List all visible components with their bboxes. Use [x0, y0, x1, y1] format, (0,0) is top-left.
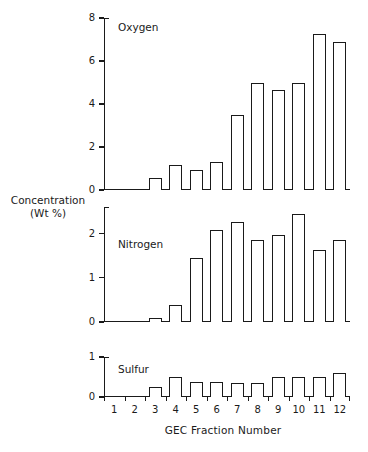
bar-nitrogen-12	[333, 240, 346, 322]
bar-sulfur-3	[149, 387, 162, 397]
bar-oxygen-11	[313, 34, 326, 190]
y-tick-label-nitrogen-0: 0	[74, 317, 95, 327]
x-axis-title: GEC Fraction Number	[95, 424, 351, 436]
y-tick-label-nitrogen-2: 2	[74, 229, 95, 239]
y-tick-label-nitrogen-1: 1	[74, 273, 95, 283]
y-tick-label-sulfur-1: 1	[74, 352, 95, 362]
x-tick-label-6: 6	[207, 405, 228, 415]
bar-oxygen-6	[210, 162, 223, 190]
bar-nitrogen-3	[149, 318, 162, 322]
y-axis-top-cap-sulfur	[104, 357, 109, 358]
x-tick-label-4: 4	[166, 405, 187, 415]
x-tick-label-5: 5	[186, 405, 207, 415]
bar-sulfur-11	[313, 377, 326, 397]
x-tick-label-3: 3	[145, 405, 166, 415]
x-tick-label-1: 1	[104, 405, 125, 415]
x-tick-3	[145, 396, 146, 401]
x-tick-1	[104, 396, 105, 401]
x-tick-6	[207, 396, 208, 401]
y-tick-oxygen-1	[99, 146, 104, 147]
bar-sulfur-9	[272, 377, 285, 397]
x-tick-8	[248, 396, 249, 401]
bar-sulfur-5	[190, 382, 203, 397]
y-axis-top-cap-oxygen	[104, 18, 109, 19]
panel-nitrogen: 012 Nitrogen	[104, 207, 350, 322]
y-tick-oxygen-0	[99, 189, 104, 190]
x-tick-11	[309, 396, 310, 401]
x-tick-9	[268, 396, 269, 401]
y-tick-nitrogen-1	[99, 277, 104, 278]
bar-sulfur-10	[292, 377, 305, 397]
bar-nitrogen-6	[210, 230, 223, 322]
x-tick-7	[227, 396, 228, 401]
x-tick-label-7: 7	[227, 405, 248, 415]
plot-area-oxygen: 02468	[104, 18, 350, 190]
bar-nitrogen-7	[231, 222, 244, 322]
x-tick-2	[125, 396, 126, 401]
bar-oxygen-10	[292, 83, 305, 191]
bar-oxygen-7	[231, 115, 244, 190]
y-tick-oxygen-3	[99, 60, 104, 61]
bar-oxygen-3	[149, 178, 162, 190]
bar-oxygen-4	[169, 165, 182, 190]
bar-nitrogen-9	[272, 235, 285, 322]
bar-nitrogen-10	[292, 214, 305, 322]
y-tick-label-oxygen-4: 8	[74, 13, 95, 23]
x-tick-4	[166, 396, 167, 401]
bar-nitrogen-5	[190, 258, 203, 322]
bar-sulfur-7	[231, 383, 244, 397]
bar-nitrogen-4	[169, 305, 182, 322]
bar-oxygen-12	[333, 42, 346, 190]
y-tick-label-sulfur-0: 0	[74, 392, 95, 402]
x-tick-label-8: 8	[248, 405, 269, 415]
bar-oxygen-8	[251, 83, 264, 191]
bar-sulfur-12	[333, 373, 346, 397]
concentration-bar-chart-figure: Concentration (Wt %) 02468 Oxygen 012 Ni…	[0, 0, 368, 452]
x-tick-label-10: 10	[289, 405, 310, 415]
x-tick-label-11: 11	[309, 405, 330, 415]
y-axis-title: Concentration (Wt %)	[2, 194, 94, 220]
panel-label-nitrogen: Nitrogen	[118, 239, 163, 250]
y-tick-label-oxygen-0: 0	[74, 185, 95, 195]
bar-oxygen-5	[190, 170, 203, 190]
y-axis-line-nitrogen	[104, 207, 105, 322]
x-tick-label-12: 12	[330, 405, 351, 415]
y-tick-label-oxygen-3: 6	[74, 56, 95, 66]
bar-sulfur-6	[210, 382, 223, 397]
panel-sulfur: 01123456789101112 Sulfur	[104, 357, 350, 397]
x-tick-5	[186, 396, 187, 401]
plot-area-nitrogen: 012	[104, 207, 350, 322]
bar-nitrogen-8	[251, 240, 264, 322]
panel-label-sulfur: Sulfur	[118, 364, 149, 375]
y-axis-title-line-1: Concentration	[11, 194, 85, 206]
y-tick-oxygen-2	[99, 103, 104, 104]
y-axis-top-cap-nitrogen	[104, 207, 109, 208]
y-tick-nitrogen-2	[99, 233, 104, 234]
x-tick-label-9: 9	[268, 405, 289, 415]
y-axis-line-oxygen	[104, 18, 105, 190]
y-axis-title-line-2: (Wt %)	[2, 207, 94, 220]
y-axis-line-sulfur	[104, 357, 105, 397]
x-tick-label-2: 2	[125, 405, 146, 415]
y-tick-nitrogen-0	[99, 321, 104, 322]
bar-sulfur-4	[169, 377, 182, 397]
y-tick-label-oxygen-2: 4	[74, 99, 95, 109]
x-tick-12	[330, 396, 331, 401]
panel-label-oxygen: Oxygen	[118, 22, 158, 33]
x-tick-10	[289, 396, 290, 401]
x-tick-end	[349, 396, 350, 401]
bar-oxygen-9	[272, 90, 285, 190]
bar-sulfur-8	[251, 383, 264, 397]
y-tick-label-oxygen-1: 2	[74, 142, 95, 152]
bar-nitrogen-11	[313, 250, 326, 322]
panel-oxygen: 02468 Oxygen	[104, 18, 350, 190]
